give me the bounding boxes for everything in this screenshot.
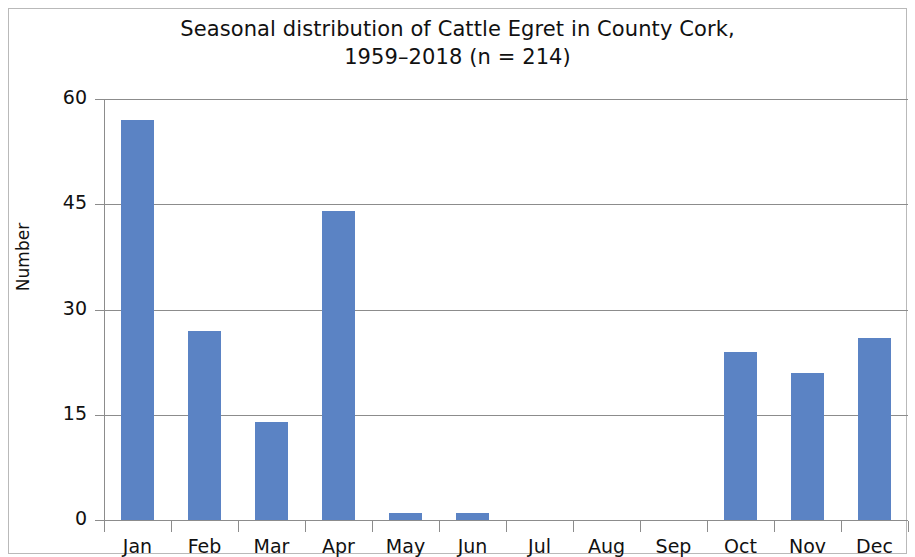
x-axis-tick-label-jan: Jan [103,535,173,557]
x-axis-tick [774,521,775,532]
x-axis-tick [171,521,172,532]
x-axis-tick-label-aug: Aug [572,535,642,557]
x-axis-tick-label-oct: Oct [706,535,776,557]
x-axis-tick [104,521,105,532]
bar-apr [322,211,355,520]
x-axis-tick-label-apr: Apr [304,535,374,557]
x-axis-tick [238,521,239,532]
bar-dec [858,338,891,520]
x-axis-tick [707,521,708,532]
y-axis-tick-label: 0 [27,507,87,529]
x-axis-tick-label-may: May [371,535,441,557]
bar-jan [121,120,154,520]
y-axis-tick-label: 15 [27,402,87,424]
x-axis-tick [573,521,574,532]
x-axis-tick-label-nov: Nov [773,535,843,557]
x-axis-tick-label-jul: Jul [505,535,575,557]
x-axis-tick [439,521,440,532]
bar-oct [724,352,757,520]
plot-area [104,99,908,520]
x-axis-tick-label-jun: Jun [438,535,508,557]
x-axis-tick [506,521,507,532]
y-axis-tick-label: 45 [27,191,87,213]
x-axis-tick-label-mar: Mar [237,535,307,557]
x-axis-tick [305,521,306,532]
x-axis-tick [908,521,909,532]
y-axis-tick-label: 60 [27,86,87,108]
bar-jun [456,513,489,520]
bar-mar [255,422,288,520]
bar-feb [188,331,221,520]
bar-nov [791,373,824,520]
bar-may [389,513,422,520]
x-axis-tick-label-sep: Sep [639,535,709,557]
y-axis-tick-label: 30 [27,297,87,319]
x-axis-tick-label-feb: Feb [170,535,240,557]
chart-frame: Seasonal distribution of Cattle Egret in… [8,8,907,554]
x-axis-tick [640,521,641,532]
x-axis-tick-label-dec: Dec [840,535,910,557]
x-axis-tick [372,521,373,532]
chart-title: Seasonal distribution of Cattle Egret in… [9,15,906,71]
x-axis-tick [841,521,842,532]
